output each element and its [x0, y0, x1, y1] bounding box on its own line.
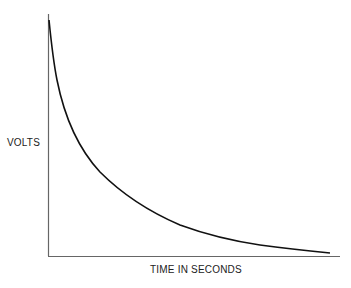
decay-curve: [49, 20, 330, 253]
y-axis-label: VOLTS: [7, 137, 40, 148]
decay-chart: [0, 0, 351, 288]
x-axis-label: TIME IN SECONDS: [150, 264, 242, 275]
